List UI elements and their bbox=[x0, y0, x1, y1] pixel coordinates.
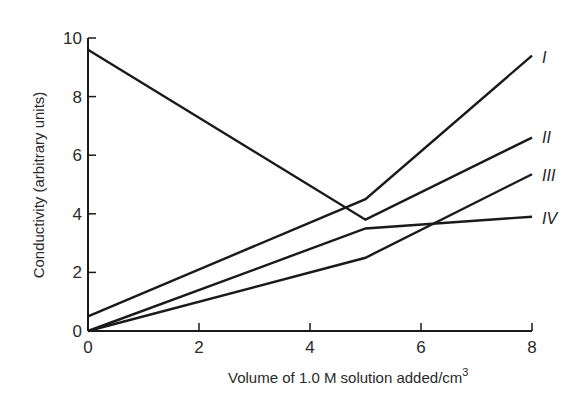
x-tick-label: 6 bbox=[416, 338, 425, 357]
y-tick-label: 4 bbox=[73, 205, 82, 224]
series-lines bbox=[88, 50, 532, 331]
series-line-ii bbox=[88, 50, 532, 220]
series-label-i: I bbox=[542, 49, 547, 66]
series-label-iii: III bbox=[542, 167, 556, 184]
series-label-iv: IV bbox=[542, 210, 558, 227]
y-tick-label: 6 bbox=[73, 146, 82, 165]
x-tick-label: 2 bbox=[194, 338, 203, 357]
y-tick-label: 0 bbox=[73, 322, 82, 341]
series-label-ii: II bbox=[542, 129, 551, 146]
y-tick-label: 2 bbox=[73, 263, 82, 282]
y-tick-label: 8 bbox=[73, 88, 82, 107]
x-tick-label: 0 bbox=[83, 338, 92, 357]
x-tick-label: 4 bbox=[305, 338, 314, 357]
y-axis-title: Conductivity (arbitrary units) bbox=[30, 92, 47, 279]
y-tick-label: 10 bbox=[63, 29, 82, 48]
x-tick-label: 8 bbox=[527, 338, 536, 357]
x-axis-title: Volume of 1.0 M solution added/cm3 bbox=[228, 366, 468, 386]
series-labels: IIIIIIIV bbox=[542, 49, 558, 227]
conductivity-chart: 024681002468 IIIIIIIV Volume of 1.0 M so… bbox=[0, 0, 585, 409]
